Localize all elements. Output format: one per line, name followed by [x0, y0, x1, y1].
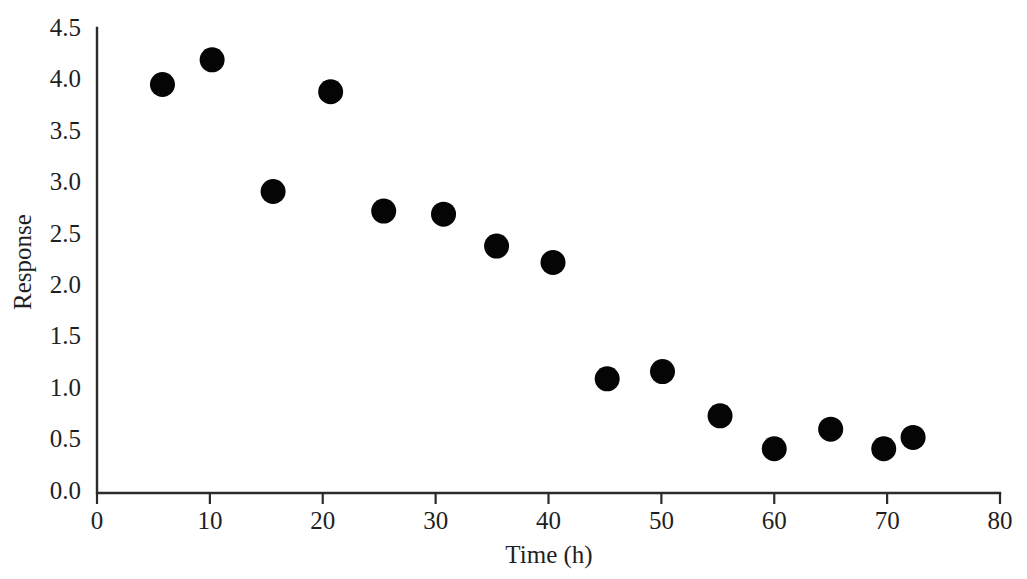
y-tick-label: 0.0 — [50, 477, 81, 504]
x-tick-label: 0 — [91, 507, 104, 534]
data-point — [431, 202, 456, 227]
x-tick-label: 50 — [649, 507, 674, 534]
y-tick-label: 0.5 — [50, 425, 81, 452]
x-tick-label: 30 — [423, 507, 448, 534]
y-axis-tick-labels: 0.00.51.01.52.02.53.03.54.04.5 — [50, 14, 81, 504]
axis-ticks — [97, 493, 1000, 504]
data-point-markers — [150, 47, 926, 461]
y-tick-label: 4.0 — [50, 65, 81, 92]
y-axis-title: Response — [9, 214, 36, 310]
data-point — [871, 436, 896, 461]
x-tick-label: 40 — [536, 507, 561, 534]
y-tick-label: 4.5 — [50, 14, 81, 41]
y-tick-label: 2.0 — [50, 271, 81, 298]
data-point — [150, 72, 175, 97]
y-tick-label: 1.5 — [50, 322, 81, 349]
data-point — [200, 47, 225, 72]
data-point — [595, 366, 620, 391]
x-tick-label: 60 — [762, 507, 787, 534]
x-tick-label: 10 — [197, 507, 222, 534]
x-axis-title: Time (h) — [505, 541, 592, 569]
data-point — [318, 79, 343, 104]
y-tick-label: 1.0 — [50, 374, 81, 401]
data-point — [650, 359, 675, 384]
data-point — [371, 199, 396, 224]
y-tick-label: 2.5 — [50, 220, 81, 247]
x-tick-label: 20 — [310, 507, 335, 534]
x-axis-tick-labels: 01020304050607080 — [91, 507, 1013, 534]
data-point — [261, 179, 286, 204]
scatter-chart: 0.00.51.01.52.02.53.03.54.04.5 010203040… — [0, 0, 1027, 579]
data-point — [708, 403, 733, 428]
x-tick-label: 70 — [875, 507, 900, 534]
data-point — [762, 436, 787, 461]
data-point — [541, 250, 566, 275]
data-point — [818, 417, 843, 442]
data-point — [901, 425, 926, 450]
plot-area: 0.00.51.01.52.02.53.03.54.04.5 010203040… — [0, 0, 1027, 579]
x-tick-label: 80 — [988, 507, 1013, 534]
y-tick-label: 3.0 — [50, 168, 81, 195]
data-point — [484, 234, 509, 259]
y-tick-label: 3.5 — [50, 117, 81, 144]
